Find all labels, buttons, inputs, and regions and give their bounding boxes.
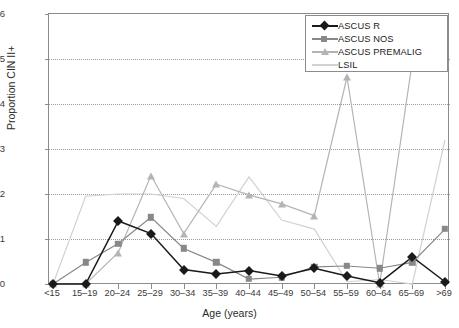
y-axis-title: Proportion CIN II+	[5, 0, 17, 130]
x-tick-label: 25–29	[137, 288, 163, 298]
legend-label: ASCUS NOS	[338, 34, 394, 44]
data-point	[344, 263, 350, 269]
y-tick-label: 0.1	[0, 233, 5, 244]
y-tick-label: 0.2	[0, 188, 5, 199]
x-tick-label: 35–39	[203, 288, 229, 298]
chart-figure: 00.10.20.30.40.50.6 <1515–1920–2425–2930…	[0, 0, 459, 328]
chart-legend: ASCUS RASCUS NOSASCUS PREMALIGLSIL	[305, 15, 448, 72]
x-tick-label: 45–49	[268, 288, 294, 298]
data-point	[310, 212, 318, 219]
data-point	[114, 249, 122, 256]
x-tick-label: 65–69	[399, 288, 425, 298]
data-point	[147, 172, 155, 179]
series-line-lsil	[53, 140, 445, 284]
data-point	[442, 226, 448, 232]
x-tick-label: 15–19	[72, 288, 98, 298]
data-point	[343, 73, 351, 80]
legend-label: ASCUS R	[338, 21, 380, 31]
data-point	[246, 276, 252, 282]
data-point	[213, 259, 219, 265]
legend-square-icon	[312, 32, 338, 45]
legend-diamond-icon	[312, 19, 338, 32]
y-tick-label: 0.3	[0, 143, 5, 154]
data-point	[212, 180, 220, 187]
data-point	[245, 191, 253, 198]
data-point	[180, 245, 186, 251]
data-point	[148, 214, 154, 220]
data-point	[278, 200, 286, 207]
x-axis-title: Age (years)	[0, 307, 459, 319]
legend-item-ascus-premalig[interactable]: ASCUS PREMALIG	[312, 45, 447, 58]
legend-label: ASCUS PREMALIG	[338, 47, 422, 57]
x-tick-label: 40–44	[235, 288, 261, 298]
x-tick-label: 20–24	[105, 288, 131, 298]
series-line-ascus-premalig	[53, 61, 445, 284]
legend-item-ascus-r[interactable]: ASCUS R	[312, 19, 447, 32]
legend-item-lsil[interactable]: LSIL	[312, 58, 447, 71]
x-tick-label: 50–54	[301, 288, 327, 298]
data-point	[180, 230, 188, 237]
x-tick-label: 60–64	[366, 288, 392, 298]
legend-item-ascus-nos[interactable]: ASCUS NOS	[312, 32, 447, 45]
data-point	[82, 259, 88, 265]
y-axis-title-anchor: Proportion CIN II+	[11, 90, 12, 91]
legend-label: LSIL	[338, 60, 358, 70]
x-tick-label: 55–59	[333, 288, 359, 298]
x-tick-label: <15	[44, 288, 60, 298]
data-point	[376, 265, 382, 271]
x-tick-label: 30–34	[170, 288, 196, 298]
legend-line-icon	[312, 58, 338, 71]
y-tick-label: 0	[0, 278, 5, 289]
legend-triangle-icon	[312, 45, 338, 58]
x-tick-label: >69	[436, 288, 452, 298]
data-point	[115, 240, 121, 246]
